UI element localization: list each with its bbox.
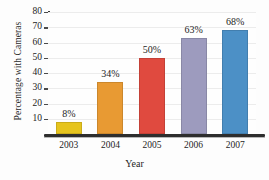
- gridline: [48, 12, 256, 13]
- bar-value-label: 8%: [46, 109, 92, 119]
- bar: [139, 58, 165, 134]
- y-tick-label: 50: [20, 53, 42, 63]
- y-tick-mark: [44, 12, 48, 13]
- x-tick-label: 2004: [87, 140, 133, 150]
- y-tick-label: 60: [20, 38, 42, 48]
- bar-chart: Percentage with Cameras 1020304050607080…: [0, 0, 269, 180]
- y-tick-label: 70: [20, 22, 42, 32]
- x-tick-label: 2006: [171, 140, 217, 150]
- y-tick-mark: [44, 104, 48, 105]
- plot-area: 1020304050607080 8%34%50%63%68%: [48, 12, 256, 134]
- bar: [181, 38, 207, 134]
- bar-value-label: 50%: [129, 45, 175, 55]
- bar: [97, 82, 123, 134]
- y-tick-mark: [44, 88, 48, 89]
- y-tick-label: 40: [20, 68, 42, 78]
- y-tick-label: 30: [20, 83, 42, 93]
- y-tick-mark: [44, 119, 48, 120]
- x-axis-line: [44, 134, 265, 137]
- y-tick-mark: [44, 58, 48, 59]
- y-tick-label: 10: [20, 114, 42, 124]
- x-tick-label: 2003: [46, 140, 92, 150]
- y-tick-label: 80: [20, 7, 42, 17]
- gridline: [48, 27, 256, 28]
- bar-value-label: 63%: [171, 25, 217, 35]
- bar: [222, 30, 248, 134]
- y-tick-label: 20: [20, 99, 42, 109]
- y-tick-mark: [44, 43, 48, 44]
- bar-value-label: 68%: [212, 17, 258, 27]
- x-tick-label: 2007: [212, 140, 258, 150]
- y-tick-mark: [44, 73, 48, 74]
- x-tick-label: 2005: [129, 140, 175, 150]
- x-axis-title: Year: [0, 158, 269, 169]
- y-tick-mark: [44, 27, 48, 28]
- bar-value-label: 34%: [87, 69, 133, 79]
- bar: [56, 122, 82, 134]
